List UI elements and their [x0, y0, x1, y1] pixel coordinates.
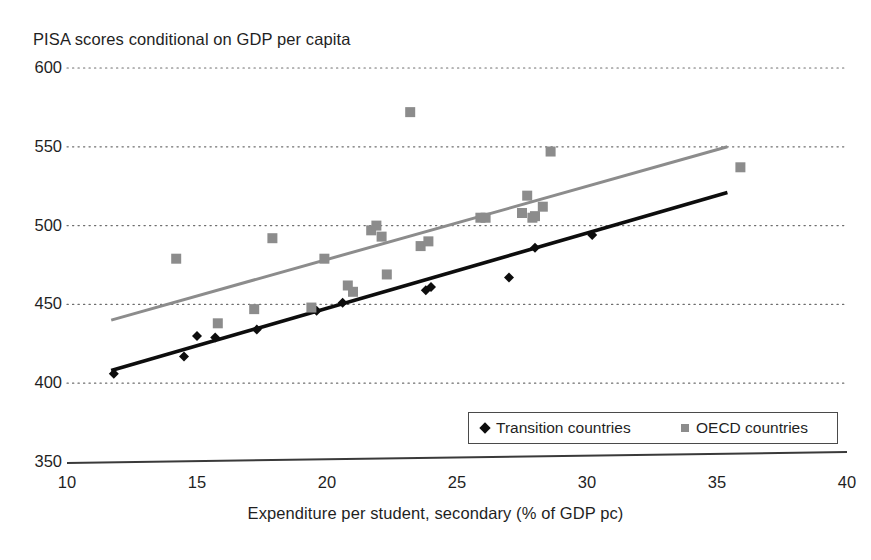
y-tick-label-550: 550: [10, 138, 62, 155]
data-point-oecd[interactable]: [522, 191, 532, 201]
data-point-oecd[interactable]: [371, 221, 381, 231]
x-tick-label-40: 40: [825, 474, 869, 491]
diamond-marker-icon: [479, 422, 490, 433]
x-tick-label-20: 20: [305, 474, 349, 491]
data-point-oecd[interactable]: [405, 107, 415, 117]
y-tick-label-500: 500: [10, 217, 62, 234]
data-point-oecd[interactable]: [348, 287, 358, 297]
data-point-oecd[interactable]: [517, 208, 527, 218]
data-point-oecd[interactable]: [735, 162, 745, 172]
data-point-oecd[interactable]: [171, 254, 181, 264]
y-tick-label-400: 400: [10, 374, 62, 391]
trendline-oecd: [111, 147, 727, 320]
square-marker-icon: [681, 424, 689, 432]
data-point-oecd[interactable]: [377, 232, 387, 242]
y-tick-label-600: 600: [10, 59, 62, 76]
data-point-transition[interactable]: [530, 243, 540, 253]
x-tick-label-10: 10: [45, 474, 89, 491]
legend-item-transition-countries[interactable]: Transition countries: [481, 413, 631, 443]
legend-item-oecd-countries[interactable]: OECD countries: [681, 413, 808, 443]
data-point-oecd[interactable]: [481, 213, 491, 223]
data-point-oecd[interactable]: [267, 233, 277, 243]
legend-label-transition-countries: Transition countries: [496, 419, 631, 437]
x-tick-label-30: 30: [565, 474, 609, 491]
data-point-oecd[interactable]: [306, 303, 316, 313]
data-point-oecd[interactable]: [546, 147, 556, 157]
legend-label-oecd-countries: OECD countries: [696, 419, 808, 437]
x-tick-label-15: 15: [175, 474, 219, 491]
data-point-oecd[interactable]: [423, 236, 433, 246]
data-point-transition[interactable]: [192, 331, 202, 341]
data-point-transition[interactable]: [504, 273, 514, 283]
x-axis-line: [67, 452, 847, 463]
x-tick-label-25: 25: [435, 474, 479, 491]
trendline-transition: [111, 193, 727, 371]
data-point-oecd[interactable]: [213, 318, 223, 328]
data-point-oecd[interactable]: [538, 202, 548, 212]
chart-legend: Transition countries OECD countries: [468, 412, 838, 444]
data-point-oecd[interactable]: [249, 304, 259, 314]
data-point-oecd[interactable]: [382, 269, 392, 279]
y-tick-label-350: 350: [10, 453, 62, 470]
y-tick-label-450: 450: [10, 295, 62, 312]
x-tick-label-35: 35: [695, 474, 739, 491]
data-point-oecd[interactable]: [530, 211, 540, 221]
data-point-oecd[interactable]: [319, 254, 329, 264]
x-axis-title: Expenditure per student, secondary (% of…: [0, 504, 871, 523]
data-point-transition[interactable]: [179, 351, 189, 361]
scatter-chart: PISA scores conditional on GDP per capit…: [0, 0, 871, 560]
